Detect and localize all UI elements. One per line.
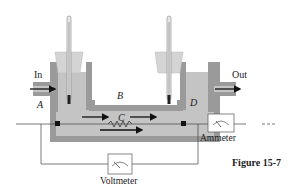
point-b-label: B [117, 90, 123, 101]
voltmeter-icon [108, 154, 132, 174]
flow-calorimeter-diagram: In Out A B C D Voltmeter Ammeter Figure … [0, 0, 297, 192]
point-c-label: C [118, 112, 125, 123]
figure-caption: Figure 15-7 [232, 157, 281, 168]
left-thermometer [67, 16, 71, 104]
point-d-label: D [189, 97, 198, 108]
junction-right [181, 121, 186, 126]
voltmeter-label: Voltmeter [100, 176, 138, 186]
ammeter-icon [208, 114, 234, 132]
right-thermometer [167, 16, 171, 104]
junction-left [55, 121, 60, 126]
ammeter-label: Ammeter [200, 133, 237, 143]
inlet-label: In [34, 69, 42, 80]
point-a-label: A [36, 99, 44, 110]
outlet-label: Out [232, 69, 247, 80]
